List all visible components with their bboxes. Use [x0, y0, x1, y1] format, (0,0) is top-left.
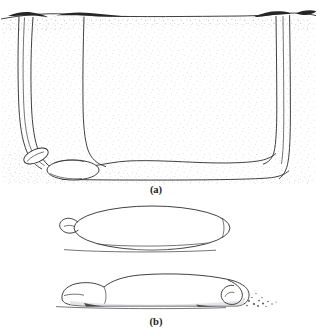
panel-b-caption: (b) — [150, 316, 163, 328]
figure-plate: (a) — [0, 0, 317, 332]
panel-a: (a) — [1, 10, 316, 196]
panel-a-caption: (a) — [150, 184, 163, 196]
illustration-svg: (a) — [0, 0, 317, 332]
